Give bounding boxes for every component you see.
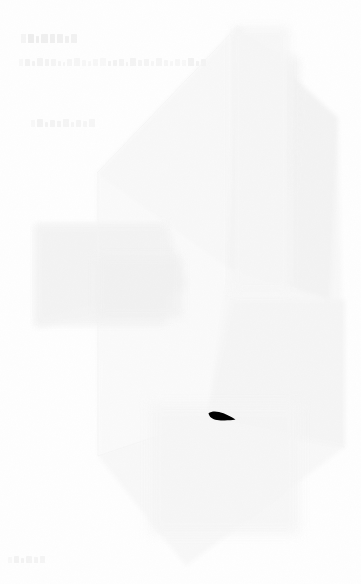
text-glyph — [201, 59, 206, 66]
text-glyph — [93, 59, 98, 66]
text-glyph — [37, 58, 43, 66]
text-glyph — [100, 58, 106, 66]
text-glyph — [83, 121, 87, 127]
cursor-wedge-shape — [209, 411, 236, 420]
text-glyph — [57, 34, 63, 43]
text-glyph — [31, 120, 35, 127]
ghost-right-band — [232, 26, 290, 292]
corner-text-mark — [8, 556, 45, 563]
text-glyph — [36, 36, 39, 43]
ghost-upper-right-facet — [228, 26, 338, 300]
text-glyph — [71, 34, 77, 43]
text-glyph — [89, 119, 95, 127]
text-glyph — [25, 59, 30, 66]
text-glyph — [19, 59, 23, 66]
text-glyph — [32, 61, 35, 66]
text-glyph — [170, 61, 173, 66]
text-glyph — [182, 60, 186, 66]
text-glyph — [34, 557, 38, 563]
text-glyph — [175, 59, 180, 66]
text-glyph — [88, 61, 91, 66]
ghost-content-block-inner — [96, 256, 182, 318]
ghost-edge-b — [98, 420, 206, 456]
text-glyph — [50, 34, 55, 43]
text-glyph — [113, 60, 117, 66]
text-glyph — [76, 120, 81, 127]
text-glyph — [26, 556, 32, 563]
text-glyph — [74, 58, 80, 66]
text-glyph — [21, 558, 24, 563]
text-glyph — [138, 60, 142, 66]
text-glyph — [63, 62, 65, 66]
paper-grain-overlay — [0, 0, 361, 584]
text-glyph — [196, 61, 199, 66]
text-glyph — [82, 60, 86, 66]
text-glyph — [67, 59, 72, 66]
text-glyph — [188, 58, 194, 66]
ghost-polygon-artwork — [0, 0, 361, 584]
text-glyph — [41, 34, 48, 43]
cursor-wedge-icon — [207, 410, 237, 425]
text-glyph — [28, 34, 34, 43]
text-glyph — [71, 122, 74, 127]
ghost-upper-streak — [236, 30, 300, 190]
text-glyph — [151, 61, 154, 66]
page-subtitle — [19, 58, 206, 66]
text-glyph — [37, 119, 43, 127]
ghost-content-block — [35, 224, 167, 326]
text-glyph — [156, 58, 162, 66]
text-glyph — [144, 59, 149, 66]
text-glyph — [130, 58, 136, 66]
ghost-mid-slab — [36, 226, 186, 326]
text-glyph — [21, 34, 26, 43]
page-title — [21, 34, 77, 43]
text-glyph — [51, 59, 56, 66]
text-glyph — [65, 36, 69, 43]
text-glyph — [119, 59, 124, 66]
text-glyph — [45, 59, 49, 66]
secondary-text-line — [31, 119, 95, 127]
text-glyph — [40, 556, 45, 563]
text-glyph — [63, 119, 69, 127]
text-glyph — [58, 61, 61, 66]
text-glyph — [57, 121, 61, 127]
text-glyph — [108, 61, 111, 66]
text-glyph — [126, 62, 128, 66]
ghost-edge-a — [97, 26, 238, 173]
text-glyph — [164, 60, 168, 66]
screenshot-canvas — [0, 0, 361, 584]
text-glyph — [50, 120, 55, 127]
text-glyph — [14, 556, 19, 563]
ghost-main-polygon — [97, 26, 345, 566]
text-glyph — [45, 122, 48, 127]
text-glyph — [8, 557, 12, 563]
